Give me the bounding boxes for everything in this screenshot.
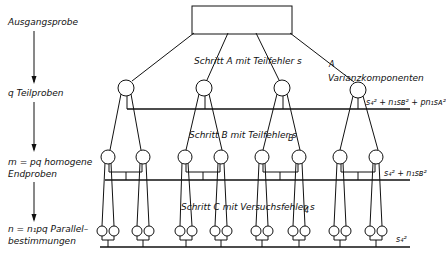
- step-c-label: Schritt C mit Versuchsfehler s: [181, 202, 315, 212]
- step-c-subscript: 4: [304, 206, 309, 215]
- step-a-label: Schritt A mit Teilfehler s: [194, 56, 302, 66]
- variance-level2: s₄² + n₁sʙ²: [384, 169, 427, 178]
- level-label-ausgangsprobe: Ausgangsprobe: [7, 17, 79, 27]
- arrow-head-icon: [32, 76, 37, 84]
- ausgangsprobe-box: [192, 6, 292, 34]
- level3-nodes: [97, 226, 387, 236]
- step-b-label: Schritt B mit Teilfehler s: [189, 130, 297, 140]
- nested-sampling-diagram: Ausgangsprobe q Teilproben m = pq homoge…: [0, 0, 446, 258]
- level-label-homogene: m = pq homogene: [8, 157, 93, 167]
- variance-level3: s₄²: [396, 235, 407, 244]
- variance-title: Varianzkomponenten: [328, 73, 424, 83]
- level-label-teilproben: q Teilproben: [8, 88, 64, 98]
- step-b-subscript: B: [288, 134, 294, 143]
- arrow-head-icon: [32, 214, 37, 222]
- level2-nodes: [101, 150, 383, 164]
- variance-level1: s₄² + n₁sʙ² + pn₁sᴀ²: [366, 98, 446, 107]
- arrow-head-icon: [32, 144, 37, 152]
- level-label-parallel: n = n₁pq Parallel–: [8, 224, 89, 234]
- level-label-endproben: Endproben: [8, 169, 57, 179]
- level-label-bestimmungen: bestimmungen: [8, 236, 76, 246]
- step-a-subscript: A: [328, 60, 334, 69]
